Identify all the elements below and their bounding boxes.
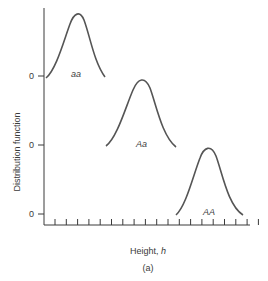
baseline-label-AA: 0 (29, 209, 34, 219)
genotype-label-aa: aa (71, 69, 81, 79)
curve-Aa (106, 80, 176, 147)
chart: 0 0 0 aa Aa AA Distribution function Hei… (0, 0, 268, 281)
x-axis-label-var: h (161, 246, 166, 256)
genotype-label-AA: AA (202, 207, 215, 217)
genotype-label-Aa: Aa (135, 139, 147, 149)
figure-caption: (a) (143, 263, 154, 273)
curve-AA (176, 148, 243, 215)
x-axis-label-text: Height, (130, 246, 161, 256)
y-baseline-ticks (38, 76, 44, 214)
baseline-label-Aa: 0 (29, 140, 34, 150)
baseline-label-aa: 0 (29, 71, 34, 81)
x-axis-ticks (55, 219, 268, 225)
x-axis-label: Height, h (130, 246, 166, 256)
y-axis-label: Distribution function (12, 112, 22, 191)
